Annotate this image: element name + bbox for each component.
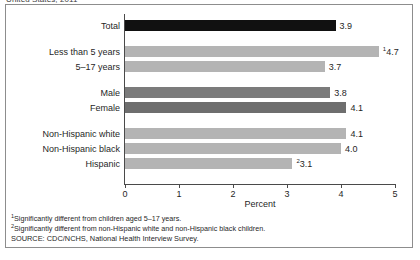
category-label: Non-Hispanic white (2, 129, 120, 139)
value-label: 4.1 (350, 129, 363, 139)
x-tick-label-5: 5 (392, 189, 397, 199)
category-label: Hispanic (2, 159, 120, 169)
value-number: 4.1 (350, 103, 363, 113)
category-label: Male (2, 88, 120, 98)
x-tick-0 (125, 184, 126, 188)
x-axis-title: Percent (124, 199, 396, 209)
bar (125, 46, 379, 57)
bar (125, 102, 346, 113)
value-label: 4.0 (345, 144, 358, 154)
x-tick-label-4: 4 (338, 189, 343, 199)
value-number: 4.1 (350, 129, 363, 139)
value-label: 3.7 (329, 62, 342, 72)
x-tick-label-2: 2 (230, 189, 235, 199)
chart-frame (5, 4, 413, 248)
bar (125, 158, 292, 169)
footnote-2-text: Significantly different from non-Hispani… (14, 224, 265, 233)
value-label: 3.8 (334, 88, 347, 98)
x-tick-label-0: 0 (122, 189, 127, 199)
value-number: 4.7 (386, 47, 399, 57)
x-tick-1 (179, 184, 180, 188)
x-tick-label-3: 3 (284, 189, 289, 199)
category-label: Non-Hispanic black (2, 144, 120, 154)
category-label: Total (2, 21, 120, 31)
footnote-2: 2Significantly different from non-Hispan… (11, 224, 265, 234)
category-label: Less than 5 years (2, 47, 120, 57)
x-tick-4 (341, 184, 342, 188)
bar (125, 87, 330, 98)
category-label: 5–17 years (2, 62, 120, 72)
value-number: 3.7 (329, 62, 342, 72)
footnotes-block: 1Significantly different from children a… (11, 214, 265, 244)
x-axis-line (124, 184, 396, 185)
footnote-1-text: Significantly different from children ag… (14, 214, 181, 223)
value-label: 14.7 (383, 47, 399, 57)
value-label: 3.9 (340, 21, 353, 31)
value-label: 23.1 (296, 159, 312, 169)
bar (125, 61, 325, 72)
footnote-1: 1Significantly different from children a… (11, 214, 265, 224)
source-line: SOURCE: CDC/NCHS, National Health Interv… (11, 233, 265, 244)
bar (125, 143, 341, 154)
category-label: Female (2, 103, 120, 113)
value-number: 3.9 (340, 21, 353, 31)
x-tick-5 (395, 184, 396, 188)
x-tick-label-1: 1 (176, 189, 181, 199)
value-number: 3.8 (334, 88, 347, 98)
value-number: 3.1 (300, 159, 313, 169)
bar (125, 128, 346, 139)
bar (125, 20, 336, 31)
value-number: 4.0 (345, 144, 358, 154)
x-tick-3 (287, 184, 288, 188)
value-label: 4.1 (350, 103, 363, 113)
x-tick-2 (233, 184, 234, 188)
